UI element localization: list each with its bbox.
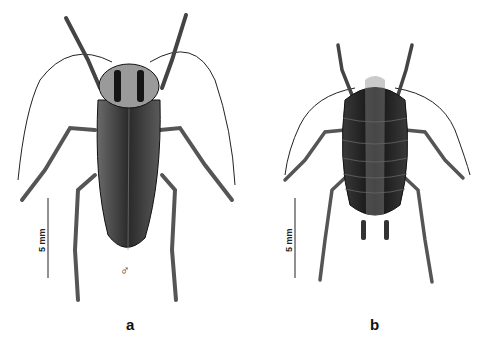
male-symbol: ♂: [120, 263, 130, 278]
figure-illustration: [0, 0, 489, 341]
panel-label-a: a: [126, 316, 134, 333]
specimen-a: [18, 15, 235, 300]
scale-bar-label-b: 5 mm: [284, 228, 294, 252]
specimen-b: [285, 45, 470, 282]
panel-label-b: b: [370, 316, 379, 333]
scale-bar-label-a: 5 mm: [37, 228, 47, 252]
